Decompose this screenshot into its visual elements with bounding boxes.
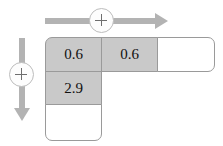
grid-cell[interactable]: 0.6 <box>101 37 158 72</box>
diagram-canvas: 0.6 0.6 2.9 <box>0 0 223 146</box>
add-row-plus-circle-icon[interactable] <box>9 62 34 87</box>
arrow-right-icon <box>155 13 168 29</box>
value-grid: 0.6 0.6 2.9 <box>45 37 215 141</box>
grid-cell-empty[interactable] <box>45 104 102 141</box>
arrow-down-icon <box>14 108 30 121</box>
grid-shadow-top <box>92 77 223 112</box>
grid-cell-empty[interactable] <box>157 37 215 72</box>
add-column-plus-circle-icon[interactable] <box>89 8 114 33</box>
grid-cell[interactable]: 2.9 <box>45 71 102 105</box>
grid-cell[interactable]: 0.6 <box>45 37 102 72</box>
